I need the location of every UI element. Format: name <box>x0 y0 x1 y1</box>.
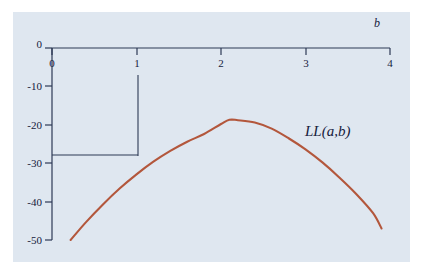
x-tick-label-2: 2 <box>218 58 224 69</box>
series-label-ll: LL(a,b) <box>305 123 350 140</box>
x-tick-label-3: 3 <box>303 58 309 69</box>
chart-svg <box>0 0 422 273</box>
x-axis-title: b <box>374 16 380 31</box>
x-tick-label-1: 1 <box>134 58 140 69</box>
y-tick-label-minus20: -20 <box>18 120 42 131</box>
x-tick-label-4: 4 <box>387 58 393 69</box>
plot-area: 0 1 2 3 4 0 -10 -20 -30 -40 -50 b LL(a,b… <box>0 0 422 273</box>
x-axis-ticks <box>52 48 390 55</box>
x-tick-label-0: 0 <box>49 58 55 69</box>
y-tick-label-0: 0 <box>18 39 42 50</box>
y-tick-label-minus10: -10 <box>18 81 42 92</box>
y-tick-label-minus50: -50 <box>18 235 42 246</box>
y-axis-ticks <box>45 48 52 240</box>
figure-container: 0 1 2 3 4 0 -10 -20 -30 -40 -50 b LL(a,b… <box>0 0 422 273</box>
y-tick-label-minus40: -40 <box>18 197 42 208</box>
y-tick-label-minus30: -30 <box>18 158 42 169</box>
